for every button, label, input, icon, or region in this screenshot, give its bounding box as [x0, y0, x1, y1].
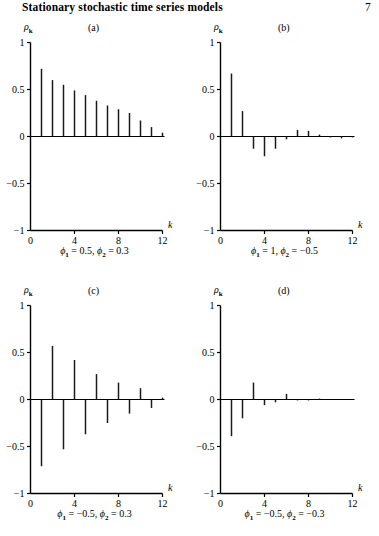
x-axis-label-b: k [358, 219, 362, 230]
x-tick-label: 4 [72, 235, 77, 244]
caption-phi1-value-b: 1 [270, 245, 275, 256]
x-tick-label: 12 [348, 498, 358, 507]
x-axis-label-a: k [168, 219, 172, 230]
page-title: Stationary stochastic time series models [22, 1, 223, 13]
chart-panel-a: ρk (a) 10.50−0.5−104812 k ϕ1 = 0.5, ϕ2 =… [0, 18, 189, 268]
caption-phi2-value-a: 0.3 [116, 245, 129, 256]
x-tick-label: 4 [262, 498, 267, 507]
chart-panel-d: ρk (d) 10.50−0.5−104812 k ϕ1 = −0.5, ϕ2 … [190, 281, 379, 531]
panel-caption-d: ϕ1 = −0.5, ϕ2 = −0.3 [190, 508, 379, 522]
x-tick-label: 12 [158, 235, 168, 244]
caption-phi1-value-c: −0.5 [77, 508, 95, 519]
x-tick-label: 8 [306, 498, 311, 507]
y-tick-label: −0.5 [196, 441, 214, 452]
x-tick-label: 0 [28, 498, 33, 507]
y-tick-label: 0.5 [202, 347, 215, 358]
caption-phi2-value-c: 0.3 [119, 508, 132, 519]
chart-panel-c: ρk (c) 10.50−0.5−104812 k ϕ1 = −0.5, ϕ2 … [0, 281, 189, 531]
y-tick-label: 1 [210, 300, 215, 311]
y-tick-label: 1 [20, 37, 25, 48]
y-tick-label: 0 [210, 131, 215, 142]
panel-caption-b: ϕ1 = 1, ϕ2 = −0.5 [190, 245, 379, 259]
plot-area-b: 10.50−0.5−104812 [190, 18, 379, 244]
page-number: 7 [365, 1, 378, 13]
page-header: Stationary stochastic time series models… [0, 0, 379, 18]
y-tick-label: 1 [210, 37, 215, 48]
x-tick-label: 4 [72, 498, 77, 507]
chart-panel-b: ρk (b) 10.50−0.5−104812 k ϕ1 = 1, ϕ2 = −… [190, 18, 379, 268]
caption-phi1-value-a: 0.5 [80, 245, 93, 256]
caption-phi1-value-d: −0.5 [264, 508, 282, 519]
caption-phi2-value-d: −0.3 [306, 508, 324, 519]
y-tick-label: −0.5 [6, 178, 24, 189]
x-tick-label: 12 [348, 235, 358, 244]
y-tick-label: 0.5 [202, 84, 215, 95]
y-tick-label: 0 [20, 131, 25, 142]
plot-area-c: 10.50−0.5−104812 [0, 281, 189, 507]
x-axis-label-c: k [168, 482, 172, 493]
y-tick-label: −0.5 [6, 441, 24, 452]
x-tick-label: 0 [28, 235, 33, 244]
y-tick-label: −1 [14, 225, 25, 236]
y-tick-label: −0.5 [196, 178, 214, 189]
y-tick-label: 0 [210, 394, 215, 405]
plot-area-a: 10.50−0.5−104812 [0, 18, 189, 244]
y-tick-label: 0.5 [12, 347, 25, 358]
caption-phi2-value-b: −0.5 [300, 245, 318, 256]
x-tick-label: 8 [116, 498, 121, 507]
x-tick-label: 8 [306, 235, 311, 244]
x-tick-label: 0 [218, 235, 223, 244]
y-tick-label: −1 [14, 488, 25, 499]
x-tick-label: 0 [218, 498, 223, 507]
y-tick-label: 0 [20, 394, 25, 405]
panel-caption-c: ϕ1 = −0.5, ϕ2 = 0.3 [0, 508, 189, 522]
y-tick-label: 1 [20, 300, 25, 311]
panel-caption-a: ϕ1 = 0.5, ϕ2 = 0.3 [0, 245, 189, 259]
x-tick-label: 4 [262, 235, 267, 244]
y-tick-label: 0.5 [12, 84, 25, 95]
y-tick-label: −1 [204, 225, 215, 236]
x-axis-label-d: k [358, 482, 362, 493]
plot-area-d: 10.50−0.5−104812 [190, 281, 379, 507]
x-tick-label: 8 [116, 235, 121, 244]
x-tick-label: 12 [158, 498, 168, 507]
y-tick-label: −1 [204, 488, 215, 499]
